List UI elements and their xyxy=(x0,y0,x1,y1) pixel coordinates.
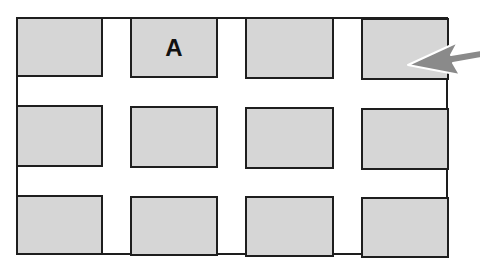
block-r3c3 xyxy=(245,196,334,257)
block-r1c3 xyxy=(245,17,334,79)
block-r3c1 xyxy=(16,195,103,255)
block-r2c3 xyxy=(245,107,334,169)
block-r3c2 xyxy=(130,196,218,256)
arrow-left-icon xyxy=(400,35,481,80)
block-r3c4 xyxy=(361,197,449,258)
block-label-a: A xyxy=(165,36,182,60)
block-r1c2: A xyxy=(130,17,218,78)
block-r1c1 xyxy=(16,17,103,77)
block-r2c4 xyxy=(361,108,449,170)
block-r2c2 xyxy=(130,106,218,168)
block-r2c1 xyxy=(16,105,103,167)
